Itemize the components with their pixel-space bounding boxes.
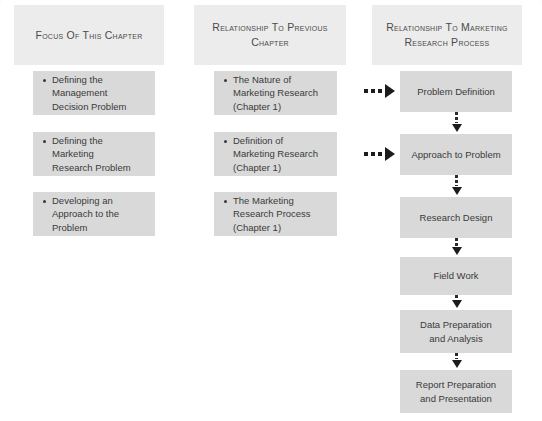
dotted-arrow-right-icon [364, 84, 400, 98]
dotted-arrow-down-icon [451, 175, 462, 195]
bullet-dot-icon [43, 200, 46, 203]
arrow-dots [455, 175, 458, 186]
bullet-dot-icon [224, 200, 227, 203]
bullet-label: Definition of Marketing Research (Chapte… [233, 134, 318, 175]
dotted-arrow-right-icon [364, 147, 400, 161]
flow-step-problem-definition: Problem Definition [400, 71, 512, 112]
bullet-row: The Marketing Research Process (Chapter … [224, 194, 311, 235]
arrow-dots [455, 238, 458, 246]
arrow-dots [455, 353, 458, 359]
arrow-head [452, 247, 462, 255]
bullet-box: Defining the Management Decision Problem [33, 71, 155, 115]
flow-step-report-preparation-and-presentation: Report Preparation and Presentation [400, 370, 512, 413]
bullet-row: The Nature of Marketing Research (Chapte… [224, 73, 318, 114]
flow-step-label: Research Design [420, 211, 493, 225]
flow-step-field-work: Field Work [400, 257, 512, 295]
arrow-dots [455, 295, 458, 299]
bullet-label: Developing an Approach to the Problem [52, 194, 119, 235]
arrow-head [452, 300, 462, 308]
bullet-dot-icon [224, 140, 227, 143]
arrow-head [452, 187, 462, 195]
bullet-box: The Marketing Research Process (Chapter … [214, 192, 337, 236]
column-header-label: Focus of This Chapter [36, 28, 143, 43]
bullet-row: Developing an Approach to the Problem [43, 194, 119, 235]
bullet-box: Developing an Approach to the Problem [33, 192, 155, 236]
flow-step-data-preparation-and-analysis: Data Preparation and Analysis [400, 310, 512, 353]
bullet-label: Defining the Marketing Research Problem [52, 134, 131, 175]
bullet-box: Definition of Marketing Research (Chapte… [214, 132, 337, 176]
bullet-row: Definition of Marketing Research (Chapte… [224, 134, 318, 175]
flow-step-approach-to-problem: Approach to Problem [400, 134, 512, 175]
bullet-label: The Nature of Marketing Research (Chapte… [233, 73, 318, 114]
flow-step-label: Report Preparation and Presentation [416, 378, 496, 405]
flow-step-label: Problem Definition [417, 85, 495, 99]
column-header-label: Relationship to Previous Chapter [200, 20, 340, 50]
dotted-arrow-down-icon [451, 353, 462, 368]
bullet-label: Defining the Management Decision Problem [52, 73, 126, 114]
arrow-dots [364, 89, 384, 93]
bullet-box: Defining the Marketing Research Problem [33, 132, 155, 176]
flow-step-research-design: Research Design [400, 197, 512, 238]
bullet-row: Defining the Marketing Research Problem [43, 134, 131, 175]
flow-step-label: Approach to Problem [411, 148, 500, 162]
column-header-relationship-to-previous-chapter: Relationship to Previous Chapter [194, 5, 346, 65]
bullet-row: Defining the Management Decision Problem [43, 73, 126, 114]
flow-step-label: Field Work [433, 269, 478, 283]
bullet-box: The Nature of Marketing Research (Chapte… [214, 71, 337, 115]
bullet-dot-icon [224, 79, 227, 82]
column-header-label: Relationship to Marketing Research Proce… [378, 20, 516, 50]
bullet-dot-icon [43, 140, 46, 143]
arrow-head [385, 147, 395, 161]
column-header-relationship-to-marketing-research-process: Relationship to Marketing Research Proce… [372, 5, 522, 65]
flow-step-label: Data Preparation and Analysis [420, 318, 492, 345]
column-header-focus-of-this-chapter: Focus of This Chapter [14, 5, 164, 65]
arrow-head [452, 360, 462, 368]
dotted-arrow-down-icon [451, 238, 462, 255]
dotted-arrow-down-icon [451, 295, 462, 308]
arrow-dots [455, 112, 458, 123]
arrow-dots [364, 152, 384, 156]
arrow-head [452, 124, 462, 132]
dotted-arrow-down-icon [451, 112, 462, 132]
diagram-canvas: Focus of This Chapter Relationship to Pr… [0, 0, 542, 421]
bullet-dot-icon [43, 79, 46, 82]
arrow-head [385, 84, 395, 98]
bullet-label: The Marketing Research Process (Chapter … [233, 194, 311, 235]
